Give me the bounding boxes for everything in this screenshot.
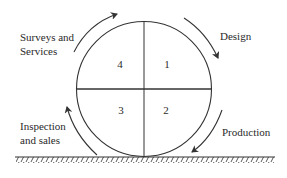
cycle-diagram: 4 1 3 2 Surveys and Services Design Prod… [0,0,287,178]
ground-surface [15,157,275,163]
quadrant-1-number: 1 [164,58,170,70]
wheel [77,22,212,157]
label-production: Production [222,126,271,138]
quadrant-2-number: 2 [163,104,169,116]
arrow-bottom-left-icon [67,107,97,155]
quadrant-4-number: 4 [117,58,123,70]
label-inspection-line2: and sales [20,134,60,146]
label-inspection-line1: Inspection [20,120,66,132]
label-design: Design [220,30,252,42]
label-surveys-line2: Services [20,45,57,57]
arrow-top-left-icon [74,14,117,52]
quadrant-3-number: 3 [118,104,124,116]
label-surveys-line1: Surveys and [20,31,75,43]
